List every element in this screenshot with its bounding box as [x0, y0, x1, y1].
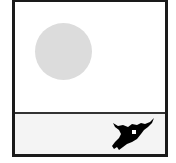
game-scene: [12, 0, 168, 157]
sun-icon: [35, 23, 92, 80]
sky-area: [15, 2, 165, 112]
creature-icon: [110, 117, 156, 151]
ground-area: [15, 114, 165, 154]
